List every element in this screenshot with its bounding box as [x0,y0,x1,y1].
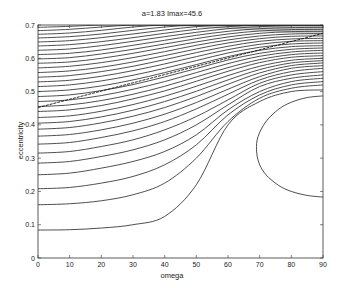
y-axis-label: eccentricity [16,111,25,171]
x-tick-label: 80 [287,261,295,268]
contour-line [38,48,323,97]
x-tick-label: 20 [97,261,105,268]
contour-line [38,41,323,82]
y-tick-label: 0.1 [25,221,35,228]
x-tick-label: 40 [161,261,169,268]
x-tick-label: 90 [319,261,327,268]
x-tick-label: 60 [224,261,232,268]
x-tick-label: 70 [256,261,264,268]
y-tick-label: 0.2 [25,188,35,195]
y-tick-label: 0 [31,255,35,262]
y-tick-label: 0.7 [25,22,35,29]
y-tick-label: 0.4 [25,121,35,128]
figure: a=1.83 Imax=45.6 010203040506070809000.1… [0,0,344,288]
x-tick-label: 30 [129,261,137,268]
y-tick-label: 0.3 [25,155,35,162]
x-tick-label: 10 [66,261,74,268]
y-tick-label: 0.5 [25,88,35,95]
y-tick-label: 0.6 [25,55,35,62]
contour-line [38,66,323,137]
x-tick-label: 0 [36,261,40,268]
contour-line [38,82,323,189]
x-axis-label: omega [0,271,344,280]
plot-area: 010203040506070809000.10.20.30.40.50.60.… [0,0,344,288]
x-tick-label: 50 [192,261,200,268]
closed-contour [256,96,323,197]
contour-group [38,25,323,230]
